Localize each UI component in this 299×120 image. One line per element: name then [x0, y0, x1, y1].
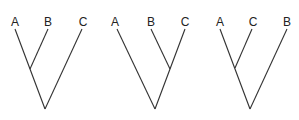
tree-2-label-1: A: [111, 15, 119, 29]
tree-2-label-3: C: [181, 15, 190, 29]
tree-3-label-2: C: [249, 15, 258, 29]
tree-2: A B C: [111, 15, 190, 109]
tree-2-edge-c: [155, 29, 185, 109]
tree-3-edge-b: [250, 29, 287, 109]
tree-1-label-2: B: [44, 15, 52, 29]
tree-2-edge-b: [151, 29, 170, 69]
tree-3-edge-a: [220, 29, 250, 109]
tree-1-label-3: C: [79, 15, 88, 29]
tree-3-edge-c: [235, 29, 252, 68]
tree-diagrams: A B C A B C A C B: [0, 0, 299, 120]
tree-3: A C B: [216, 15, 291, 109]
tree-1: A B C: [11, 15, 88, 109]
tree-1-edge-b: [30, 29, 48, 69]
tree-2-label-2: B: [147, 15, 155, 29]
tree-3-label-3: B: [283, 15, 291, 29]
tree-1-label-1: A: [11, 15, 19, 29]
tree-3-label-1: A: [216, 15, 224, 29]
tree-2-edge-a: [117, 29, 155, 109]
tree-1-edge-c: [45, 29, 82, 109]
